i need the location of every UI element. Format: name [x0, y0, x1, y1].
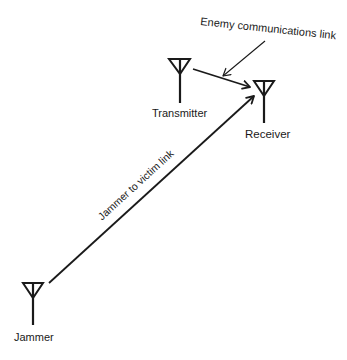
transmitter-label: Transmitter — [152, 108, 207, 119]
jammer-label: Jammer — [14, 332, 54, 343]
receiver-antenna-icon — [254, 81, 274, 123]
transmitter-antenna-icon — [169, 59, 190, 103]
jammer-victim-link-arrow — [49, 96, 254, 283]
transmitter-receiver-link-arrow — [193, 69, 250, 87]
diagram-graphics — [0, 0, 347, 360]
jamming-diagram: Enemy communications link Transmitter Re… — [0, 0, 347, 360]
annotation-pointer-arrow — [223, 41, 265, 76]
receiver-label: Receiver — [245, 129, 290, 141]
jammer-antenna-icon — [23, 283, 43, 325]
